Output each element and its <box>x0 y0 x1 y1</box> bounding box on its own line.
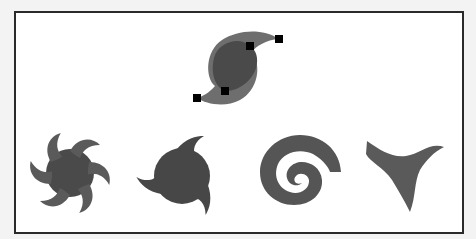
anchor-point[interactable] <box>275 35 283 43</box>
anchor-point[interactable] <box>193 94 201 102</box>
pinwheel-shape[interactable] <box>26 130 114 215</box>
three-prong-shape[interactable] <box>366 141 444 212</box>
spiral-shape[interactable] <box>260 135 341 205</box>
three-hook-shape[interactable] <box>136 136 219 215</box>
drawing-canvas <box>0 0 476 239</box>
anchor-point[interactable] <box>246 42 254 50</box>
selected-swirl-shape[interactable] <box>193 32 283 105</box>
anchor-point[interactable] <box>221 87 229 95</box>
